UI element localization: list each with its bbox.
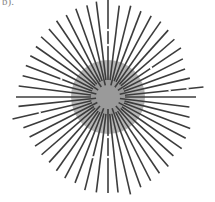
inner-grey-disc (91, 80, 125, 114)
ray-line (41, 37, 95, 86)
gap-mark (107, 136, 109, 138)
ray-line (42, 108, 96, 155)
ray-line (121, 39, 175, 86)
gap-mark (168, 89, 170, 91)
gap-mark (150, 67, 152, 69)
gap-mark (186, 87, 188, 89)
gap-mark (107, 156, 109, 158)
gap-mark (92, 156, 94, 158)
gap-mark (107, 44, 109, 46)
gap-mark (39, 112, 41, 114)
ray-line (119, 30, 168, 84)
ray-line (121, 108, 174, 156)
gap-mark (60, 78, 62, 80)
radial-lines-figure (0, 0, 215, 202)
ray-line (49, 29, 97, 84)
gap-mark (107, 29, 109, 31)
